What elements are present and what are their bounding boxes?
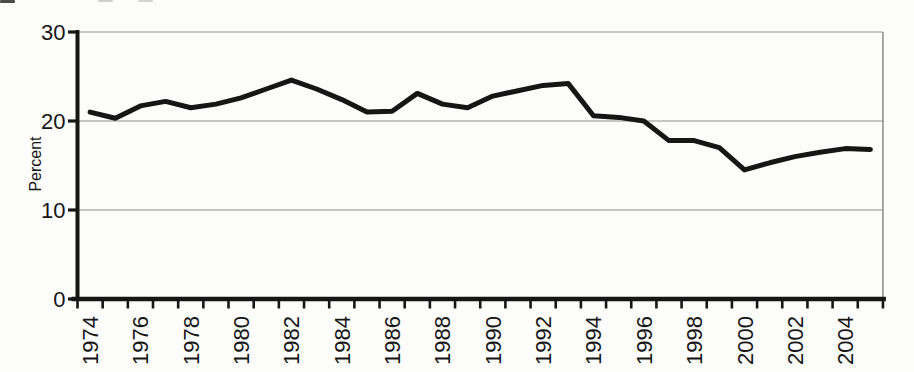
x-tick-label: 1990: [481, 316, 506, 365]
tick-marks: [68, 32, 883, 309]
chart-figure: 0102030197419761978198019821984198619881…: [0, 0, 914, 372]
data-series: [90, 80, 870, 170]
y-tick-label: 0: [53, 287, 65, 312]
x-tick-label: 1998: [682, 316, 707, 365]
y-tick-label: 10: [41, 198, 65, 223]
x-tick-label: 1978: [179, 316, 204, 365]
x-tick-label: 1980: [229, 316, 254, 365]
y-tick-label: 20: [41, 109, 65, 134]
x-tick-label: 1986: [380, 316, 405, 365]
y-tick-label: 30: [41, 20, 65, 45]
x-tick-label: 1996: [632, 316, 657, 365]
x-tick-label: 1976: [128, 316, 153, 365]
x-tick-label: 2002: [783, 316, 808, 365]
x-tick-label: 1974: [78, 316, 103, 365]
x-tick-label: 1984: [330, 316, 355, 365]
x-tick-label: 1992: [531, 316, 556, 365]
line-chart: 0102030197419761978198019821984198619881…: [0, 0, 914, 372]
y-axis-title: Percent: [27, 136, 44, 192]
x-tick-label: 1988: [430, 316, 455, 365]
x-tick-label: 2000: [733, 316, 758, 365]
x-tick-label: 1982: [279, 316, 304, 365]
x-tick-label: 2004: [833, 316, 858, 365]
data-series-line: [90, 80, 870, 170]
x-tick-label: 1994: [581, 316, 606, 365]
axis-tick-labels: 0102030197419761978198019821984198619881…: [41, 20, 858, 365]
